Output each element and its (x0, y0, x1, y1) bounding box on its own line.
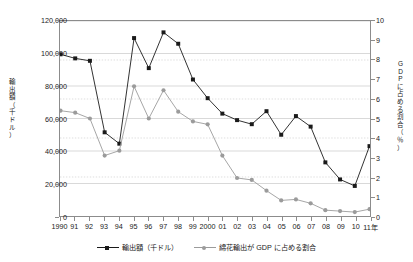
y-axis-right-title-char: め (396, 98, 405, 106)
x-axis-tick-label: 06 (292, 222, 300, 231)
data-point (265, 109, 269, 113)
x-axis-tick-mark (60, 217, 61, 221)
data-point (353, 184, 357, 188)
data-point (309, 125, 313, 129)
x-axis-tick-mark (296, 217, 297, 221)
x-axis-tick-label: 02 (233, 222, 241, 231)
x-axis-tick-mark (341, 217, 342, 221)
data-point (294, 197, 298, 201)
data-point (147, 66, 151, 70)
data-point (206, 96, 210, 100)
y-axis-right-tick-label: 5 (376, 114, 392, 123)
data-point (235, 176, 239, 180)
x-axis-tick-mark (208, 217, 209, 221)
x-axis-tick-mark (356, 217, 357, 221)
legend-swatch (194, 244, 216, 251)
x-axis-tick-label: 03 (248, 222, 256, 231)
data-point (368, 144, 370, 148)
y-axis-right-tick-mark (371, 138, 375, 139)
y-axis-right-tick-label: 4 (376, 134, 392, 143)
x-axis-tick-label: 10 (352, 222, 360, 231)
legend-label: 輸出額（千ドル） (122, 243, 178, 252)
y-axis-right-tick-mark (371, 178, 375, 179)
y-axis-right-title-char: （ (396, 128, 405, 136)
x-axis-tick-label: 01 (218, 222, 226, 231)
data-point (264, 189, 268, 193)
x-axis-tick-mark (74, 217, 75, 221)
x-axis-tick-mark (89, 217, 90, 221)
x-axis-tick-label: 11年 (363, 222, 377, 232)
data-point (73, 56, 77, 60)
y-axis-right-tick-mark (371, 40, 375, 41)
data-point (294, 114, 298, 118)
y-axis-left-tick-label: 100,000 (23, 48, 67, 57)
x-axis-tick-label: 08 (322, 222, 330, 231)
data-point (73, 111, 77, 115)
legend-entry-gdp-share[interactable]: 綿花輸出が GDP に占める割合 (194, 243, 315, 252)
data-point (353, 210, 357, 214)
plot-area (59, 20, 371, 217)
y-axis-right-tick-mark (371, 79, 375, 80)
data-point (250, 122, 254, 126)
y-axis-right-title-char: ％ (396, 136, 405, 144)
data-point (279, 133, 283, 137)
y-axis-right-tick-mark (371, 59, 375, 60)
cotton-export-chart: 輸出額（千ドル） GDPに占める割合（％） 020,00040,00060,00… (0, 0, 413, 262)
legend-entry-export-value[interactable]: 輸出額（千ドル） (97, 243, 178, 252)
y-axis-right-tick-mark (371, 119, 375, 120)
y-axis-right-tick-label: 2 (376, 173, 392, 182)
y-axis-right-tick-mark (371, 20, 375, 21)
x-axis-tick-label: 07 (307, 222, 315, 231)
data-point (206, 122, 210, 126)
x-axis-tick-label: 96 (144, 222, 152, 231)
data-point (161, 88, 165, 92)
y-axis-left-tick-label: 40,000 (23, 147, 67, 156)
y-axis-right-title-char: 占 (396, 90, 405, 98)
x-axis-tick-label: 92 (85, 222, 93, 231)
data-point (103, 130, 107, 134)
y-axis-left-tick-mark (55, 151, 59, 152)
data-point (250, 178, 254, 182)
y-axis-right-title-char: G (396, 60, 405, 68)
x-axis-tick-label: 99 (189, 222, 197, 231)
x-axis-tick-mark (311, 217, 312, 221)
data-point (117, 149, 121, 153)
y-axis-left-tick-mark (55, 20, 59, 21)
y-axis-left-tick-label: 20,000 (23, 180, 67, 189)
x-axis-tick-mark (371, 217, 372, 221)
y-axis-right-tick-mark (371, 158, 375, 159)
y-axis-right-tick-label: 10 (376, 16, 392, 25)
x-axis-tick-mark (222, 217, 223, 221)
y-axis-right-tick-mark (371, 99, 375, 100)
x-axis-tick-label: 97 (159, 222, 167, 231)
y-axis-right-tick-label: 6 (376, 94, 392, 103)
x-axis-tick-label: 05 (278, 222, 286, 231)
y-axis-left-tick-mark (55, 119, 59, 120)
y-axis-left-title-char: ） (8, 131, 17, 139)
data-point (220, 112, 224, 116)
y-axis-right-tick-mark (371, 197, 375, 198)
data-point (338, 177, 342, 181)
x-axis-tick-mark (237, 217, 238, 221)
chart-legend: 輸出額（千ドル）綿花輸出が GDP に占める割合 (0, 243, 413, 252)
data-point (323, 160, 327, 164)
x-axis-tick-mark (163, 217, 164, 221)
y-axis-left-title-char: ル (8, 124, 17, 132)
x-axis-tick-mark (178, 217, 179, 221)
y-axis-left-tick-mark (55, 53, 59, 54)
data-point (220, 153, 224, 157)
x-axis-tick-label: 91 (70, 222, 78, 231)
x-axis-tick-label: 09 (337, 222, 345, 231)
y-axis-left-title-char: 輸 (8, 78, 17, 86)
y-axis-right-tick-label: 3 (376, 153, 392, 162)
y-axis-right-title: GDPに占める割合（％） (396, 60, 405, 151)
data-point (88, 59, 92, 63)
data-point (103, 153, 107, 157)
y-axis-left-tick-label: 60,000 (23, 114, 67, 123)
y-axis-left-tick-mark (55, 217, 59, 218)
x-axis-tick-label: 98 (174, 222, 182, 231)
x-axis-tick-label: 2000 (200, 222, 216, 231)
x-axis-tick-mark (119, 217, 120, 221)
x-axis-tick-label: 94 (115, 222, 123, 231)
data-point (162, 30, 166, 34)
